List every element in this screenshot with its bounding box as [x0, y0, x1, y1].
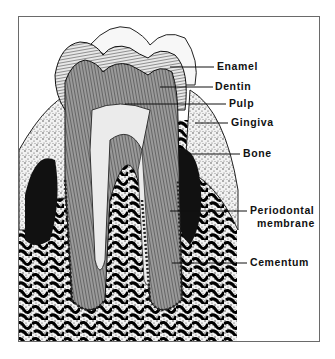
label-cementum: Cementum	[250, 257, 309, 268]
label-pulp: Pulp	[229, 98, 254, 109]
label-gingiva: Gingiva	[231, 117, 274, 128]
label-enamel: Enamel	[217, 61, 258, 72]
label-periodontal: Periodontal	[250, 205, 314, 216]
label-bone: Bone	[243, 148, 272, 159]
label-dentin: Dentin	[215, 81, 251, 92]
label-membrane: membrane	[257, 218, 315, 229]
tooth-illustration	[0, 0, 335, 359]
